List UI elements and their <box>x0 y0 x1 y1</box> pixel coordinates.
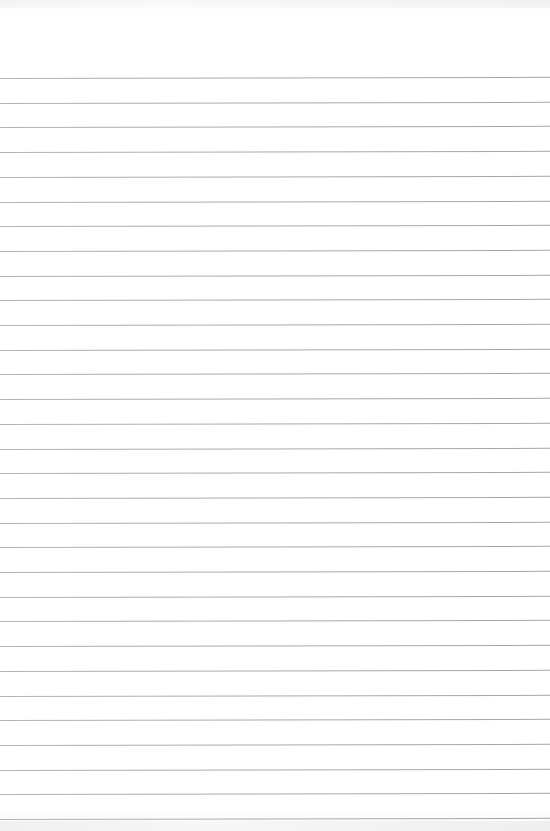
ruled-line <box>0 151 550 153</box>
ruled-line <box>0 324 550 326</box>
ruled-line <box>0 522 550 524</box>
ruled-line <box>0 596 550 598</box>
ruled-line <box>0 176 550 178</box>
ruled-line <box>0 645 550 647</box>
ruled-line <box>0 769 550 771</box>
ruled-line <box>0 250 550 252</box>
ruled-line <box>0 225 550 227</box>
ruled-line <box>0 126 550 128</box>
ruled-line <box>0 620 550 622</box>
lined-paper-sheet <box>0 0 550 831</box>
ruled-line <box>0 448 550 450</box>
ruled-line <box>0 102 550 104</box>
ruled-line <box>0 77 550 79</box>
ruled-line <box>0 571 550 573</box>
ruled-line <box>0 546 550 548</box>
ruled-line <box>0 670 550 672</box>
ruled-line <box>0 201 550 203</box>
ruled-line <box>0 719 550 721</box>
ruled-line <box>0 398 550 400</box>
ruled-line <box>0 299 550 301</box>
ruled-line <box>0 349 550 351</box>
ruled-line <box>0 818 550 820</box>
ruled-line <box>0 695 550 697</box>
ruled-line <box>0 497 550 499</box>
ruled-line <box>0 275 550 277</box>
ruled-line <box>0 744 550 746</box>
paper-top-edge <box>0 0 550 8</box>
ruled-line <box>0 373 550 375</box>
ruled-line <box>0 423 550 425</box>
paper-bottom-edge <box>0 821 550 831</box>
ruled-line <box>0 472 550 474</box>
ruled-line <box>0 793 550 795</box>
